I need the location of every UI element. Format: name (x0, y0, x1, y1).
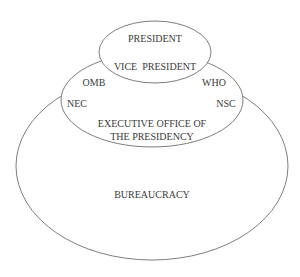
omb-label: OMB (83, 77, 106, 88)
diagram-canvas: PRESIDENT VICE PRESIDENT OMB WHO NEC NSC… (0, 0, 300, 277)
nsc-label: NSC (216, 98, 236, 109)
bureaucracy-label: BUREAUCRACY (114, 189, 190, 200)
vice-president-label: VICE PRESIDENT (114, 61, 196, 72)
president-label: PRESIDENT (128, 33, 182, 44)
who-label: WHO (202, 77, 226, 88)
eop-label-line2: THE PRESIDENCY (110, 131, 194, 142)
president-group (99, 21, 211, 83)
eop-label-line1: EXECUTIVE OFFICE OF (98, 118, 207, 129)
nec-label: NEC (67, 98, 87, 109)
